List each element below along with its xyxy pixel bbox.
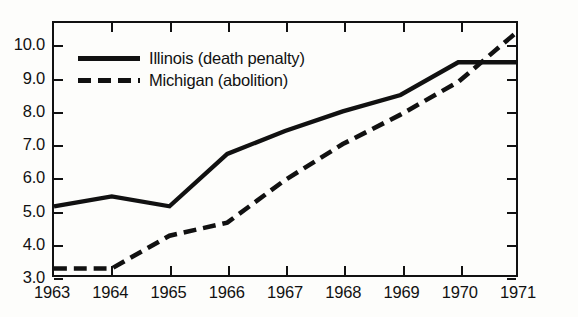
y-axis-tick-label: 10.0 [14,35,45,54]
y-axis-tick [507,45,516,47]
legend-label: Illinois (death penalty) [149,49,305,68]
y-axis-tick [54,278,63,280]
legend-swatch-solid-icon [78,51,140,65]
x-axis-tick [344,23,346,32]
x-axis-tick [286,23,288,32]
y-axis-tick [507,212,516,214]
y-axis-tick [54,145,63,147]
y-axis-tick-label: 4.0 [23,234,45,253]
x-axis-tick [228,266,230,275]
x-axis-tick [286,266,288,275]
y-axis-tick-label: 6.0 [23,168,45,187]
x-axis-tick-label: 1967 [267,283,303,302]
y-axis-tick [54,178,63,180]
x-axis-tick [111,266,113,275]
x-axis-tick-label: 1969 [384,283,420,302]
x-axis-tick [461,23,463,32]
y-axis-tick-label: 9.0 [23,68,45,87]
x-axis-tick-labels: 196319641965196619671968196919701971 [52,283,518,309]
y-axis-tick [54,79,63,81]
x-axis-tick [228,23,230,32]
y-axis-tick [507,178,516,180]
y-axis-tick [507,278,516,280]
x-axis-tick-label: 1963 [34,283,70,302]
legend-swatch-dashed-icon [78,73,140,87]
x-axis-tick [461,266,463,275]
y-axis-tick-label: 5.0 [23,201,45,220]
x-axis-tick-label: 1968 [325,283,361,302]
y-axis-tick-label: 8.0 [23,101,45,120]
y-axis-tick [507,245,516,247]
y-axis-tick [54,212,63,214]
y-axis-tick [507,112,516,114]
x-axis-tick-label: 1965 [151,283,187,302]
x-axis-tick [403,266,405,275]
legend-label: Michigan (abolition) [149,71,288,90]
x-axis-tick [170,23,172,32]
x-axis-tick [344,266,346,275]
x-axis-tick-label: 1964 [92,283,128,302]
y-axis-tick [507,145,516,147]
chart-legend: Illinois (death penalty) Michigan (aboli… [78,47,328,91]
x-axis-tick-label: 1971 [500,283,536,302]
x-axis-tick [403,23,405,32]
y-axis-tick-labels: 3.04.05.06.07.08.09.010.0 [0,21,48,277]
legend-item: Illinois (death penalty) [78,47,328,69]
y-axis-tick [54,112,63,114]
y-axis-tick [54,45,63,47]
y-axis-tick [507,79,516,81]
y-axis-tick-label: 7.0 [23,135,45,154]
y-axis-tick [54,245,63,247]
x-axis-tick-label: 1966 [209,283,245,302]
x-axis-tick [170,266,172,275]
legend-item: Michigan (abolition) [78,69,328,91]
x-axis-tick [111,23,113,32]
x-axis-tick-label: 1970 [442,283,478,302]
chart-figure: 3.04.05.06.07.08.09.010.0 19631964196519… [0,0,578,317]
